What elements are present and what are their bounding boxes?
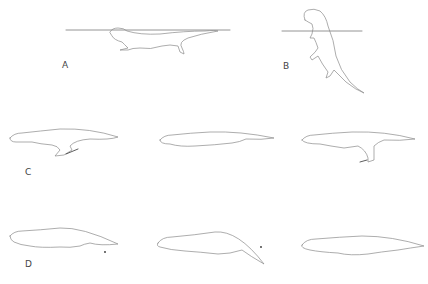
panel-d-frame-1 — [10, 228, 118, 253]
panel-d-frame-2 — [157, 232, 264, 264]
motion-arrow-c3 — [360, 160, 367, 162]
otter-body-d3 — [302, 236, 424, 255]
otter-body-c2 — [160, 132, 274, 146]
figure-drawing — [0, 0, 428, 284]
otter-body-c1 — [10, 129, 118, 156]
panel-label-c: C — [25, 167, 31, 177]
otter-swimming-figure: A B C D — [0, 0, 428, 284]
otter-body-d1 — [10, 228, 118, 247]
otter-body-d2 — [157, 232, 264, 264]
panel-b-drawing — [282, 9, 364, 93]
otter-body-c3 — [302, 132, 415, 162]
panel-label-d: D — [25, 259, 32, 269]
otter-body-a — [110, 28, 218, 54]
panel-c-frame-1 — [10, 129, 118, 156]
panel-label-a: A — [62, 60, 68, 70]
marker-d1 — [104, 251, 106, 253]
marker-d2 — [260, 246, 262, 248]
panel-a-drawing — [66, 28, 230, 54]
panel-label-b: B — [283, 61, 289, 71]
panel-c-frame-3 — [302, 132, 415, 162]
otter-body-b — [304, 9, 364, 93]
panel-c-frame-2 — [160, 132, 274, 146]
panel-d-frame-3 — [302, 236, 424, 255]
